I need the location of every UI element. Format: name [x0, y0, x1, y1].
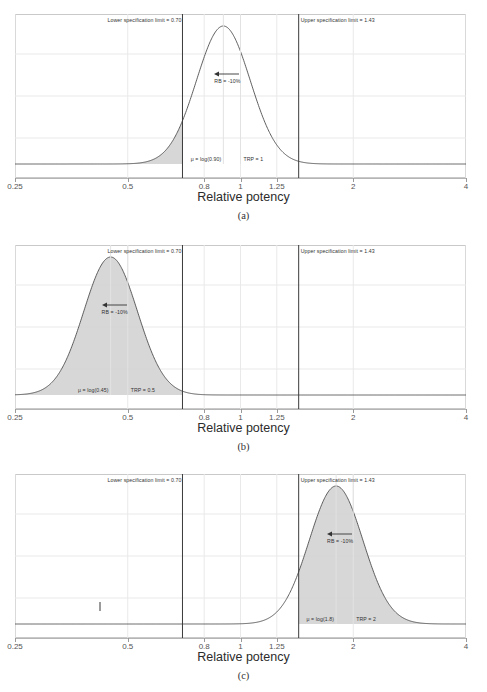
panel-label-c: (c) — [0, 670, 487, 681]
stray-mark — [99, 602, 101, 611]
panel-b: Lower specification limit = 0.70Upper sp… — [0, 231, 487, 461]
usl-annotation: Upper specification limit = 1.43 — [301, 477, 375, 483]
plot-area-b: Lower specification limit = 0.70Upper sp… — [15, 245, 466, 409]
plot-area-a: Lower specification limit = 0.70Upper sp… — [15, 14, 466, 178]
rb-annotation: RB = -10% — [214, 78, 240, 84]
axis-title-c: Relative potency — [0, 650, 487, 664]
panel-label-a: (a) — [0, 210, 487, 221]
density-plot-c — [15, 474, 466, 638]
mu-annotation: μ = log(0.90) — [191, 156, 222, 162]
panel-label-b: (b) — [0, 441, 487, 452]
axis-title-b: Relative potency — [0, 421, 487, 435]
rb-annotation: RB = -10% — [327, 538, 353, 544]
plot-area-c: Lower specification limit = 0.70Upper sp… — [15, 474, 466, 638]
density-plot-b — [15, 245, 466, 409]
lsl-annotation: Lower specification limit = 0.70 — [107, 477, 181, 483]
mu-annotation: μ = log(1.8) — [306, 616, 334, 622]
left-arrow-icon — [327, 530, 353, 538]
axis-title-a: Relative potency — [0, 190, 487, 204]
rb-annotation: RB = -10% — [102, 309, 128, 315]
mu-annotation: μ = log(0.45) — [78, 387, 109, 393]
left-arrow-icon — [102, 301, 128, 309]
density-plot-a — [15, 14, 466, 178]
figure-three-panel-relative-potency: Lower specification limit = 0.70Upper sp… — [0, 0, 487, 692]
lsl-annotation: Lower specification limit = 0.70 — [107, 248, 181, 254]
lsl-annotation: Lower specification limit = 0.70 — [107, 17, 181, 23]
usl-annotation: Upper specification limit = 1.43 — [301, 17, 375, 23]
panel-c: Lower specification limit = 0.70Upper sp… — [0, 460, 487, 690]
trp-annotation: TRP = 0.5 — [131, 387, 155, 393]
left-arrow-icon — [214, 70, 240, 78]
trp-annotation: TRP = 1 — [244, 156, 264, 162]
trp-annotation: TRP = 2 — [356, 616, 376, 622]
panel-a: Lower specification limit = 0.70Upper sp… — [0, 0, 487, 230]
usl-annotation: Upper specification limit = 1.43 — [301, 248, 375, 254]
